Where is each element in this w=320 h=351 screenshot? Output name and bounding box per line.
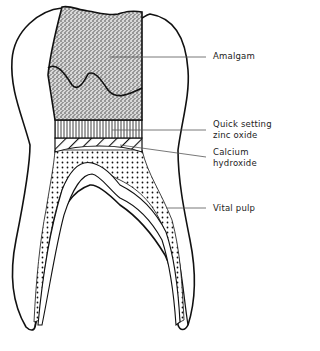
label-zinc-oxide-line1: Quick setting <box>213 119 272 129</box>
zinc-oxide-layer <box>55 120 142 138</box>
label-vital-pulp: Vital pulp <box>213 203 255 213</box>
label-calcium-line1: Calcium <box>213 147 249 157</box>
label-calcium-line2: hydroxide <box>213 158 257 168</box>
amalgam-layer <box>48 7 142 120</box>
label-amalgam: Amalgam <box>213 51 255 61</box>
label-zinc-oxide-line2: zinc oxide <box>213 130 258 140</box>
